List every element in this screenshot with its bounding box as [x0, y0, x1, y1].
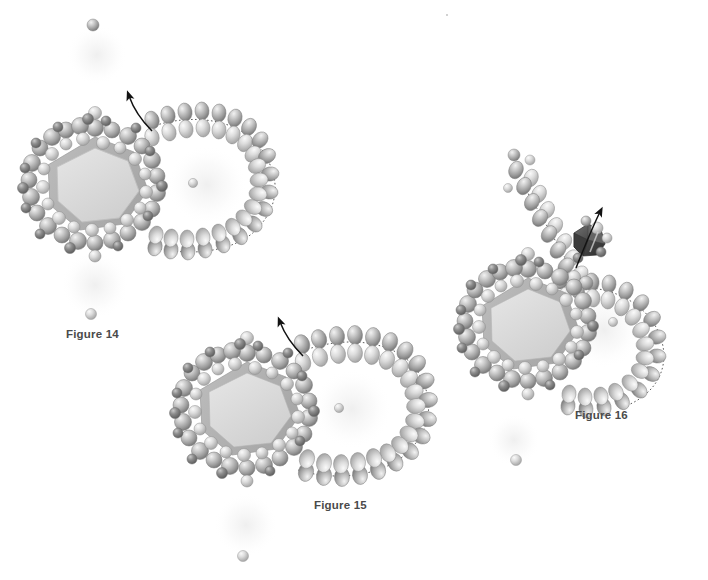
figure-14-label: Figure 14 [66, 328, 119, 340]
figure-15-label: Figure 15 [314, 499, 367, 511]
figure-canvas: Figure 14 Figure 15 Figure 16 [0, 0, 708, 580]
speck-artifact [446, 14, 448, 16]
diagram-svg [0, 0, 708, 580]
figure-16-released-particle [573, 216, 612, 263]
figure-16-label: Figure 16 [575, 409, 628, 421]
figure-15-free-beads [238, 551, 249, 562]
figure-16-free-beads [511, 455, 522, 466]
figure-16-illustration [454, 149, 668, 466]
figure-15-illustration [170, 322, 439, 562]
